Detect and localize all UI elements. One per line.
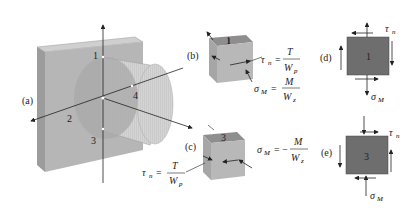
label-e: (e) (321, 147, 332, 159)
d-tau-sub: n (392, 28, 396, 36)
eq-b-sigma-sub: M (260, 88, 268, 96)
eq-c-sigma-den-sub: z (300, 157, 304, 165)
wall-side (37, 47, 45, 172)
d-tau-lhs: τ (385, 23, 389, 34)
e-sigma-sub: M (376, 195, 384, 203)
eq-b-tau-eq: = (275, 54, 281, 65)
eq-b-sigma-den-sub: z (292, 96, 296, 104)
point-1: 1 (93, 50, 98, 61)
eq-c-tau-lhs: τ (142, 167, 146, 178)
eq-b-sigma-den: W (283, 91, 293, 102)
eq-b-tau-den-sub: p (293, 67, 298, 75)
eq-c-tau-eq: = (156, 167, 162, 178)
square-d-point: 1 (366, 51, 371, 62)
eq-c-sigma-lhs: σ (257, 144, 263, 155)
d-sigma-lhs: σ (371, 91, 377, 102)
eq-c-tau-den: W (169, 175, 179, 186)
e-tau-sub: n (396, 132, 400, 140)
element-c-point: 3 (221, 132, 226, 143)
panel-e: 3 (e) τ n σ M (321, 116, 400, 203)
cylinder-section (74, 57, 138, 139)
d-sigma-sub: M (377, 96, 385, 104)
panel-a: 1 2 3 4 (a) (22, 25, 192, 183)
eq-c-sigma-num: M (293, 136, 303, 147)
eq-b-tau-sub: n (268, 59, 272, 67)
eq-c-tau-sub: n (149, 172, 153, 180)
point-4: 4 (133, 90, 138, 101)
point-2: 2 (67, 113, 72, 124)
e-tau-lhs: τ (389, 127, 393, 138)
element-c-front (211, 140, 245, 180)
eq-b-sigma-num: M (284, 76, 294, 87)
eq-c-sigma-sub: M (263, 149, 271, 157)
eq-b-tau-lhs: τ (261, 54, 265, 65)
label-c: (c) (185, 141, 196, 153)
label-b: (b) (187, 50, 199, 62)
eq-c-sigma-eq: = − (274, 144, 288, 155)
label-d: (d) (320, 52, 332, 64)
element-b-front (217, 42, 253, 83)
eq-b-sigma-eq: = (271, 83, 277, 94)
eq-b-sigma-lhs: σ (254, 83, 260, 94)
panel-b: 1 (b) τ n = T W p σ M = M W z (187, 32, 300, 104)
eq-c-sigma-den: W (291, 152, 301, 163)
cylinder-end (137, 64, 173, 144)
panel-d: 1 (d) τ n σ M (320, 23, 396, 104)
torsion-bending-diagram: 1 2 3 4 (a) 1 (b) τ n = T W p σ M = M W … (0, 0, 419, 214)
eq-b-tau-num: T (287, 46, 294, 57)
element-b-point: 1 (226, 35, 231, 46)
eq-b-tau-den: W (284, 62, 294, 73)
e-sigma-lhs: σ (370, 190, 376, 201)
square-e-point: 3 (364, 151, 369, 162)
eq-c-tau-num: T (172, 160, 179, 171)
point-3: 3 (91, 135, 96, 146)
label-a: (a) (22, 95, 33, 107)
eq-c-tau-den-sub: p (178, 180, 183, 188)
